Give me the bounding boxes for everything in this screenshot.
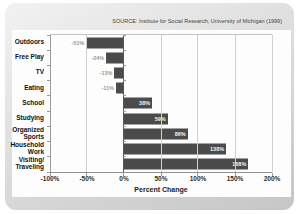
bar-value-label: -24% xyxy=(91,55,106,61)
plot-area: -51% -24% -13% -11% 38% xyxy=(50,34,272,173)
bar-value-label: -11% xyxy=(101,85,116,91)
category-label: School xyxy=(12,95,48,110)
category-label: Household Work xyxy=(12,141,48,156)
bar xyxy=(106,52,124,63)
source-note: SOURCE: Institute for Social Research, U… xyxy=(5,18,282,24)
category-label: Organized Sports xyxy=(12,125,48,140)
bar-value-label: 38% xyxy=(139,100,152,106)
x-tick-label: 50% xyxy=(154,175,167,182)
category-label: Eating xyxy=(12,80,48,95)
category-label: TV xyxy=(12,64,48,79)
x-tick-label: 0% xyxy=(119,175,128,182)
bar-value-label: 86% xyxy=(175,131,188,137)
category-label: Outdoors xyxy=(12,34,48,49)
category-axis: Outdoors Free Play TV Eating School Stud… xyxy=(12,34,48,171)
chart-panel: Outdoors Free Play TV Eating School Stud… xyxy=(12,30,291,197)
x-tick-label: -100% xyxy=(41,175,60,182)
x-tick-label: -50% xyxy=(79,175,94,182)
x-tick-label: 100% xyxy=(190,175,207,182)
bar-value-label: -51% xyxy=(71,40,86,46)
category-label: Studying xyxy=(12,110,48,125)
x-tick-label: 150% xyxy=(227,175,244,182)
x-tick-label: 200% xyxy=(264,175,281,182)
category-label: Visiting/ Traveling xyxy=(12,156,48,171)
chart-card: SOURCE: Institute for Social Research, U… xyxy=(5,3,294,210)
bar xyxy=(124,159,248,170)
bar-value-label: -13% xyxy=(100,70,115,76)
x-axis-ticks: -100% -50% 0% 50% 100% 150% 200% xyxy=(50,175,272,184)
category-label: Free Play xyxy=(12,49,48,64)
x-axis-title: Percent Change xyxy=(50,186,272,193)
bar xyxy=(86,37,124,48)
bar-value-label: 138% xyxy=(210,146,226,152)
